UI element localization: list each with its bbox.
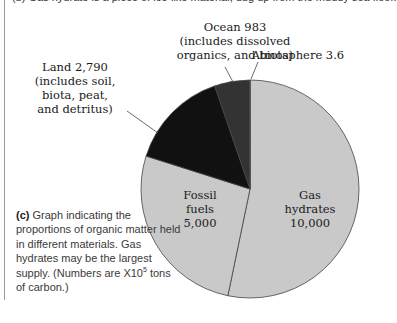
label-atmosphere: Atmosphere 3.6 — [238, 48, 358, 62]
label-ocean-title: Ocean 983 — [160, 20, 310, 34]
label-ocean-note1: (includes dissolved — [160, 34, 310, 48]
label-gas-line2: hydrates — [270, 202, 350, 216]
label-land: Land 2,790 (includes soil, biota, peat, … — [20, 60, 130, 116]
caption-label: (c) — [16, 209, 29, 221]
label-land-note1: (includes soil, — [20, 74, 130, 88]
atmosphere-leader-line — [251, 62, 258, 79]
label-land-title: Land 2,790 — [20, 60, 130, 74]
label-atmosphere-title: Atmosphere 3.6 — [238, 48, 358, 62]
label-land-note2: biota, peat, — [20, 88, 130, 102]
land-leader-line — [127, 111, 158, 133]
label-gas-hydrates: Gas hydrates 10,000 — [270, 188, 350, 230]
figure-caption: (c) Graph indicating the proportions of … — [16, 208, 181, 294]
label-gas-line1: Gas — [270, 188, 350, 202]
label-land-note3: and detritus) — [20, 102, 130, 116]
label-gas-line3: 10,000 — [270, 216, 350, 230]
ocean-leader-line — [225, 67, 233, 82]
label-fossil-line1: Fossil — [170, 188, 230, 202]
